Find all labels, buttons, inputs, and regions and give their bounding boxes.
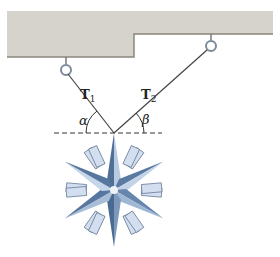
right-hook-icon <box>206 34 216 51</box>
diagram-canvas: T1 T2 α β <box>0 0 280 257</box>
label-beta: β <box>141 112 150 127</box>
left-hook-icon <box>61 57 71 75</box>
label-t2: T2 <box>141 87 156 104</box>
label-alpha: α <box>79 113 88 128</box>
snowflake-ornament-icon <box>61 133 167 247</box>
label-t1: T1 <box>80 87 95 104</box>
cable-t2 <box>114 50 207 133</box>
ceiling <box>7 11 273 57</box>
